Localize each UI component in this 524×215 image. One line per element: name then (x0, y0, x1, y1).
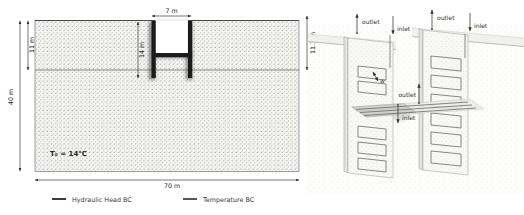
outlet-top-right-label: outlet (437, 14, 455, 21)
ground-temperature-label: T₀ = 14°C (50, 150, 87, 158)
dimension-upstream-head: 11 m (28, 21, 35, 70)
diaphragm-wall-left (152, 21, 156, 78)
dim-domain-width-label: 70 m (164, 182, 180, 189)
base-slab (153, 53, 191, 57)
legend-item-hydraulic-head-bc: Hydraulic Head BC (52, 196, 132, 204)
outlet-port-dot-mid (418, 102, 420, 104)
dim-domain-height-label: 40 m (7, 89, 14, 105)
right-panel-3d-walls: 11.3 m (300, 0, 524, 215)
outlet-port-dot-right (431, 28, 433, 30)
outlet-mid-label: outlet (398, 91, 416, 98)
hydraulic-head-bc-label: Hydraulic Head BC (72, 196, 132, 204)
dim-upstream-head-label: 11 m (28, 37, 35, 53)
legend: Hydraulic Head BC Temperature BC (52, 196, 255, 204)
excavation-pit (156, 20, 189, 54)
temperature-bc-label: Temperature BC (202, 196, 255, 204)
dimension-top-width: 7 m (152, 7, 191, 16)
legend-item-temperature-bc: Temperature BC (183, 196, 255, 204)
pipe-spacing-label: w (380, 77, 385, 84)
outlet-top-left-label: outlet (362, 18, 380, 25)
dim-wall-depth-label: 14 m (138, 42, 145, 58)
inlet-top-right-label: inlet (474, 22, 488, 29)
dimension-domain-width: 70 m (35, 180, 299, 189)
inlet-top-left-label: inlet (397, 25, 411, 32)
outlet-port-dot-left (356, 32, 358, 34)
inlet-mid-label: inlet (402, 114, 416, 121)
figure-mesh-diagram: 7 m 14 m 11 m 40 m 70 m T₀ = 14°C (0, 0, 524, 215)
diaphragm-wall-right (188, 21, 192, 78)
dim-top-width-label: 7 m (165, 7, 177, 14)
dimension-domain-height: 40 m (7, 21, 20, 171)
inlet-port-dot-mid (397, 104, 399, 106)
left-panel-2d-mesh: 7 m 14 m 11 m 40 m 70 m T₀ = 14°C (0, 0, 310, 215)
